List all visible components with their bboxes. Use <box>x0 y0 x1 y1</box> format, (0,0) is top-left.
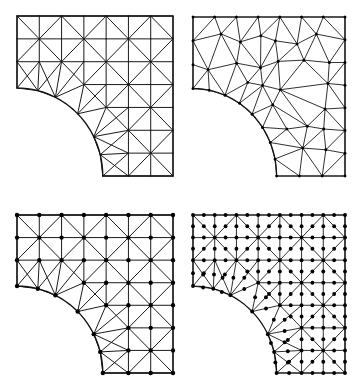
mesh-edge <box>304 60 329 62</box>
mesh-edge <box>225 83 248 96</box>
mesh-node <box>289 213 293 217</box>
mesh-node <box>126 258 130 262</box>
mesh-edge <box>128 130 150 153</box>
mesh-edge <box>151 260 173 283</box>
mesh-node <box>224 213 228 217</box>
mesh-node <box>98 350 102 354</box>
mesh-node <box>344 152 347 155</box>
mesh-nodes <box>192 16 347 178</box>
mesh-edge <box>221 17 236 34</box>
mesh-edge <box>302 17 317 34</box>
mesh-edge <box>328 83 345 85</box>
mesh-node <box>287 371 291 375</box>
mesh-node <box>321 360 325 364</box>
mesh-node <box>37 258 41 262</box>
mesh-edge <box>304 60 328 83</box>
mesh-node <box>321 175 324 178</box>
mesh-node <box>332 303 336 307</box>
mesh-node <box>92 332 96 336</box>
mesh-edge <box>221 34 237 63</box>
mesh-node <box>211 287 215 291</box>
mesh-edge <box>84 260 106 283</box>
mesh-edge <box>307 109 325 126</box>
mesh-node <box>311 281 315 285</box>
mesh-edge <box>240 17 258 42</box>
mesh-node <box>149 326 153 330</box>
mesh-node <box>344 61 347 64</box>
mesh-node <box>126 371 130 375</box>
mesh-node <box>332 281 336 285</box>
mesh-edge <box>273 105 308 126</box>
mesh-node <box>235 247 239 251</box>
mesh-edge <box>208 70 225 95</box>
mesh-node <box>213 236 217 240</box>
mesh-node <box>289 281 293 285</box>
mesh-edge <box>106 39 128 62</box>
mesh-node <box>256 281 260 285</box>
mesh-edge <box>304 34 316 60</box>
mesh-node <box>126 235 130 239</box>
mesh-node <box>191 236 195 240</box>
mesh-node <box>104 258 108 262</box>
mesh-node <box>289 224 293 228</box>
mesh-node <box>343 360 347 364</box>
mesh-node <box>303 59 306 62</box>
mesh-edge <box>151 215 173 238</box>
mesh-node <box>101 371 105 375</box>
mesh-edge <box>240 42 260 68</box>
mesh-edge <box>39 39 61 62</box>
mesh-node <box>267 292 271 296</box>
mesh-node <box>192 87 195 90</box>
mesh-edge <box>62 215 84 238</box>
mesh-node <box>321 315 325 319</box>
mesh-edge <box>106 238 128 261</box>
mesh-edge <box>270 143 303 149</box>
mesh-edge <box>106 16 128 39</box>
mesh-edge <box>94 328 129 334</box>
mesh-edge <box>248 68 261 83</box>
mesh-edge <box>325 108 345 109</box>
mesh-node <box>250 310 254 314</box>
mesh-node <box>171 326 175 330</box>
mesh-node <box>191 271 195 275</box>
mesh-edge <box>261 36 276 41</box>
mesh-node <box>311 269 315 273</box>
mesh-node <box>332 269 336 273</box>
mesh-node <box>343 348 347 352</box>
mesh-edge <box>263 85 273 104</box>
mesh-node <box>300 281 304 285</box>
mesh-node <box>343 303 347 307</box>
mesh-svg-c <box>17 215 173 373</box>
mesh-edge <box>280 83 328 89</box>
mesh-node <box>235 62 238 65</box>
mesh-node <box>300 292 304 296</box>
mesh-node <box>300 371 304 375</box>
mesh-node <box>278 236 282 240</box>
mesh-edge <box>151 16 173 39</box>
mesh-node <box>343 213 347 217</box>
mesh-node <box>202 224 206 228</box>
mesh-edge <box>215 17 221 34</box>
mesh-svg-b <box>193 17 345 176</box>
mesh-node <box>231 276 235 280</box>
mesh-node <box>324 107 327 110</box>
mesh-node <box>202 247 206 251</box>
mesh-edge <box>261 41 276 68</box>
mesh-node <box>332 236 336 240</box>
mesh-node <box>37 235 41 239</box>
mesh-node <box>235 224 239 228</box>
mesh-edge <box>273 90 281 105</box>
mesh-edges <box>193 17 345 176</box>
mesh-edge <box>151 62 173 85</box>
mesh-node <box>321 292 325 296</box>
mesh-edge <box>100 153 128 155</box>
mesh-node <box>104 235 108 239</box>
mesh-node <box>332 292 336 296</box>
mesh-node <box>311 360 315 364</box>
mesh-edge <box>151 39 173 62</box>
mesh-node <box>261 84 264 87</box>
mesh-node <box>289 292 293 296</box>
mesh-node <box>300 348 304 352</box>
mesh-edge <box>78 107 106 113</box>
mesh-node <box>149 348 153 352</box>
